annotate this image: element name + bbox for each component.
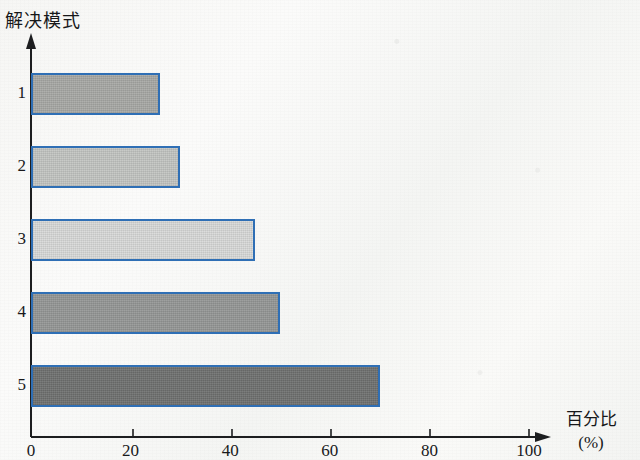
x-tick-label-20: 20 [122,441,139,460]
x-tick-label-60: 60 [321,441,338,460]
x-tick-label-100: 100 [516,441,542,460]
y-tick-label-1: 1 [0,83,26,103]
bar-fill [33,294,278,332]
bar-chart: 解决模式 1 2 3 4 5 0 20 40 60 80 100 [0,0,640,460]
x-tick-label-80: 80 [421,441,438,460]
bar-category-5 [31,365,380,407]
bar-category-1 [31,73,160,115]
x-axis-label-text: 百分比 [566,410,617,429]
bar-category-4 [31,292,280,334]
bar-fill [33,75,158,113]
x-tick-label-0: 0 [27,441,36,460]
y-tick-label-5: 5 [0,375,26,395]
x-tick-label-40: 40 [222,441,239,460]
y-axis-arrow-icon [26,33,36,49]
y-tick-label-2: 2 [0,156,26,176]
y-tick-label-4: 4 [0,302,26,322]
y-tick-label-3: 3 [0,229,26,249]
x-axis-caption: 百分比 (%) [548,408,634,454]
bar-category-3 [31,219,255,261]
bar-fill [33,221,253,259]
bar-fill [33,148,178,186]
bar-category-2 [31,146,180,188]
bar-fill [33,367,378,405]
x-axis-unit-text: (%) [548,431,634,454]
